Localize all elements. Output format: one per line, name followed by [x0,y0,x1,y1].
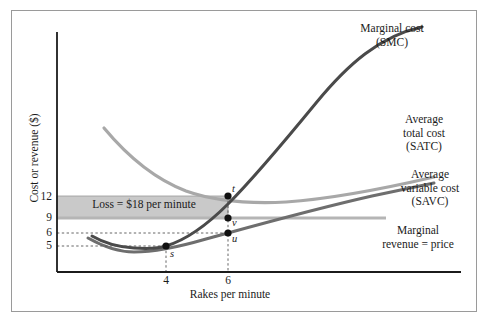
point-v [224,214,231,221]
economics-cost-curve-figure: Cost or revenue ($) 12 9 6 5 4 6 Rakes p… [0,0,490,323]
smc-label-line2: (SMC) [338,36,446,50]
point-s [162,242,169,249]
point-label-u: u [232,233,237,245]
satc-label: Average total cost (SATC) [376,113,472,154]
y-tick-12: 12 [32,190,52,202]
y-tick-9: 9 [32,211,52,223]
point-label-t: t [232,183,235,195]
x-axis-title: Rakes per minute [140,288,320,300]
satc-label-line1: Average [376,113,472,127]
x-tick-6: 6 [216,274,240,286]
savc-label-line1: Average [380,168,480,182]
mr-label-line1: Marginal [358,224,478,238]
savc-label-line3: (SAVC) [380,195,480,209]
y-tick-5: 5 [32,239,52,251]
loss-annotation: Loss = $18 per minute [60,198,228,210]
point-label-s: s [170,248,174,260]
mr-label: Marginal revenue = price [358,224,478,251]
smc-label: Marginal cost (SMC) [338,22,446,49]
y-tick-6: 6 [32,226,52,238]
smc-label-line1: Marginal cost [338,22,446,36]
mr-label-line2: revenue = price [358,238,478,252]
savc-label: Average variable cost (SAVC) [380,168,480,209]
point-label-v: v [232,217,237,229]
y-axis-title: Cost or revenue ($) [28,88,40,228]
satc-label-line3: (SATC) [376,140,472,154]
satc-label-line2: total cost [376,127,472,141]
savc-label-line2: variable cost [380,182,480,196]
point-u [224,229,231,236]
x-tick-4: 4 [154,274,178,286]
